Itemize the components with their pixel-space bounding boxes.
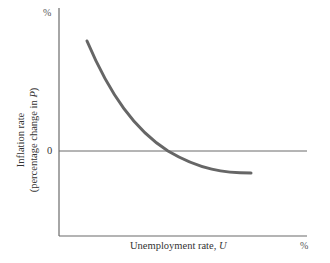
y-label-variable: P xyxy=(28,91,39,97)
y-label-close: ) xyxy=(28,88,39,92)
y-axis-label-wrap: Inflation rate (percentage change in P) xyxy=(2,60,52,220)
phillips-curve-chart: % 0 Inflation rate (percentage change in… xyxy=(0,0,330,263)
y-axis-label-line2: (percentage change in P) xyxy=(27,88,40,193)
y-axis-label-line1: Inflation rate xyxy=(14,88,27,193)
x-axis-label: Unemployment rate, U xyxy=(130,240,227,251)
phillips-curve xyxy=(87,41,251,173)
y-label-text: (percentage change in xyxy=(28,98,39,193)
x-label-text: Unemployment rate, xyxy=(130,240,219,251)
x-label-variable: U xyxy=(219,240,227,251)
x-axis-unit: % xyxy=(300,240,308,251)
y-axis-unit: % xyxy=(43,7,51,18)
y-axis-label: Inflation rate (percentage change in P) xyxy=(14,88,40,193)
